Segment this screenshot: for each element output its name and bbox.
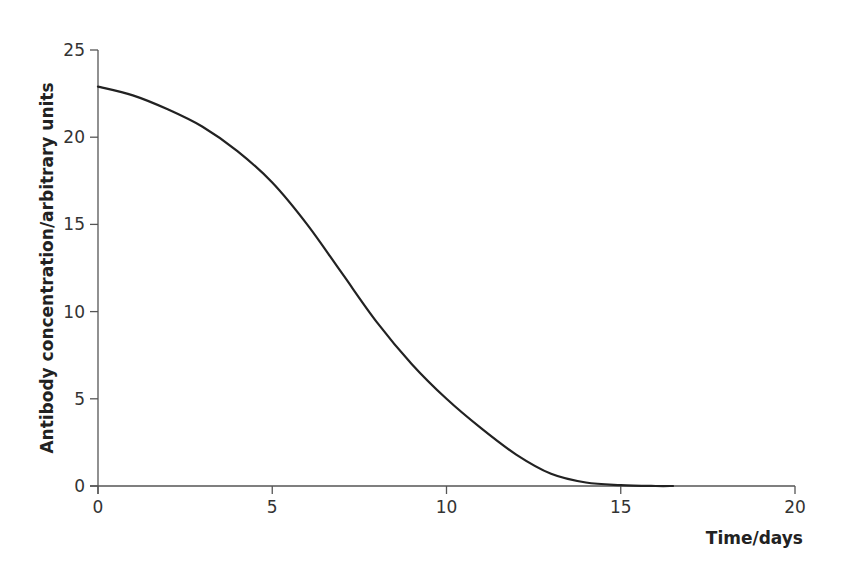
y-tick-label: 10 [63,302,85,322]
x-tick-label: 5 [267,497,278,517]
x-tick-label: 10 [436,497,458,517]
y-axis-title: Antibody concentration/arbitrary units [37,82,57,453]
data-series [98,87,673,486]
antibody-curve [98,87,673,486]
y-axis: 0510152025 [63,40,98,496]
y-tick-label: 20 [63,127,85,147]
x-tick-label: 15 [610,497,632,517]
x-axis: 05101520 [90,486,806,517]
x-axis-title: Time/days [706,528,803,548]
y-tick-label: 0 [74,476,85,496]
y-tick-label: 5 [74,389,85,409]
x-tick-label: 20 [784,497,806,517]
line-chart: 0510152025 05101520 Time/days Antibody c… [0,0,848,582]
y-tick-label: 15 [63,214,85,234]
x-tick-label: 0 [93,497,104,517]
y-tick-label: 25 [63,40,85,60]
